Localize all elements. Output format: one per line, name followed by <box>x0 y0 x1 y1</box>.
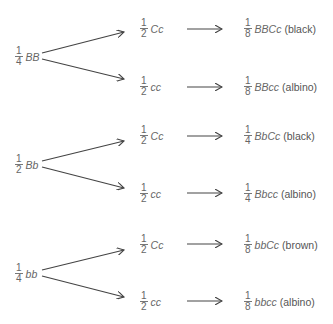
branch-node-Cc: 12 Cc <box>140 18 163 39</box>
result-node-bbcc: 18 bbcc (albino) <box>244 291 315 312</box>
fraction: 12 <box>140 291 148 312</box>
phenotype-label: (albino) <box>282 81 317 93</box>
phenotype-label: (brown) <box>282 239 318 251</box>
fraction: 12 <box>140 183 148 204</box>
phenotype-label: (albino) <box>281 188 316 200</box>
branch-node-Cc: 12 Cc <box>140 234 163 255</box>
branch-node-Cc: 12 Cc <box>140 125 163 146</box>
result-node-BBcc: 18 BBcc (albino) <box>244 76 317 97</box>
fraction: 12 <box>140 76 148 97</box>
fraction: 12 <box>140 18 148 39</box>
genotype-label: Bbcc <box>255 188 278 200</box>
fraction: 14 <box>244 183 252 204</box>
fraction: 12 <box>15 154 23 175</box>
genotype-label: Cc <box>151 23 164 35</box>
branch-node-cc: 12 cc <box>140 76 161 97</box>
fraction: 14 <box>244 125 252 146</box>
result-node-BBCc: 18 BBCc (black) <box>244 18 316 39</box>
genotype-label: Cc <box>151 239 164 251</box>
genotype-label: bbCc <box>255 239 280 251</box>
genotype-label: cc <box>151 188 162 200</box>
genotype-label: bbcc <box>255 296 277 308</box>
fraction: 12 <box>140 234 148 255</box>
phenotype-label: (albino) <box>280 296 315 308</box>
genotype-label: BbCc <box>255 130 281 142</box>
fraction: 14 <box>15 46 23 67</box>
root-node-BB: 14 BB <box>15 46 40 67</box>
genotype-label: cc <box>151 81 162 93</box>
genotype-label: BB <box>26 51 40 63</box>
result-node-BbCc: 14 BbCc (black) <box>244 125 315 146</box>
genotype-label: BBCc <box>255 23 282 35</box>
phenotype-label: (black) <box>284 23 316 35</box>
phenotype-label: (black) <box>283 130 315 142</box>
fraction: 18 <box>244 76 252 97</box>
tree-arrows <box>0 0 333 324</box>
branch-node-cc: 12 cc <box>140 183 161 204</box>
result-node-Bbcc: 14 Bbcc (albino) <box>244 183 316 204</box>
root-node-Bb: 12 Bb <box>15 154 38 175</box>
genotype-label: BBcc <box>255 81 280 93</box>
genotype-label: Cc <box>151 130 164 142</box>
fraction: 12 <box>140 125 148 146</box>
fraction: 18 <box>244 18 252 39</box>
root-node-bb: 14 bb <box>15 263 37 284</box>
fraction: 18 <box>244 234 252 255</box>
branch-node-cc: 12 cc <box>140 291 161 312</box>
fraction: 18 <box>244 291 252 312</box>
result-node-bbCc: 18 bbCc (brown) <box>244 234 318 255</box>
fraction: 14 <box>15 263 23 284</box>
genotype-label: bb <box>26 268 38 280</box>
genotype-label: cc <box>151 296 162 308</box>
genotype-label: Bb <box>26 159 39 171</box>
